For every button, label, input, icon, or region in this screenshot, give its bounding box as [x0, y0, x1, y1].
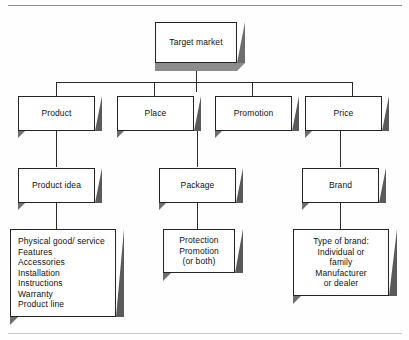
package-details-label: Protection Promotion (or both) [179, 235, 219, 267]
target-market-extrude-side [237, 22, 245, 63]
product-idea-details-extrude-bottom [10, 317, 18, 325]
product-idea-details-label: Physical good/ service Features Accessor… [11, 236, 105, 310]
brand-face: Brand [302, 168, 379, 203]
node-target-market[interactable]: Target market [155, 22, 237, 63]
node-brand[interactable]: Brand [302, 168, 379, 203]
package-extrude-bottom [159, 203, 166, 210]
product-idea-details-extrude-side [116, 229, 124, 317]
connector-target-to-bus [196, 70, 197, 92]
promotion-extrude-side [292, 96, 299, 131]
connector-drop-place [154, 82, 155, 96]
connector-drop-price [352, 82, 353, 96]
connector-price-to-brand [340, 131, 341, 167]
node-brand-details[interactable]: Type of brand: Individual or family Manu… [293, 229, 389, 296]
node-product-idea-details[interactable]: Physical good/ service Features Accessor… [10, 229, 116, 317]
price-face: Price [305, 96, 382, 131]
place-face: Place [117, 96, 194, 131]
package-details-face: Protection Promotion (or both) [163, 229, 235, 273]
connector-promotion-to-package [197, 131, 198, 167]
promotion-face: Promotion [215, 96, 292, 131]
price-label: Price [334, 108, 354, 119]
package-details-extrude-bottom [163, 273, 171, 281]
package-label: Package [181, 180, 215, 191]
price-extrude-bottom [305, 131, 312, 138]
brand-extrude-side [379, 168, 386, 203]
connector-drop-product [56, 82, 57, 96]
node-package-details[interactable]: Protection Promotion (or both) [163, 229, 235, 273]
product-idea-details-face: Physical good/ service Features Accessor… [10, 229, 116, 317]
brand-details-label: Type of brand: Individual or family Manu… [313, 236, 369, 289]
package-details-extrude-side [235, 229, 243, 273]
promotion-label: Promotion [234, 108, 274, 119]
page-top-rule [8, 5, 402, 6]
connector-package-to-details [197, 203, 198, 229]
diagram-canvas: Target market Product Place Promotion Pr… [0, 0, 409, 340]
connector-bus-four-ps [56, 82, 352, 83]
place-label: Place [145, 108, 167, 119]
target-market-label: Target market [169, 37, 222, 48]
product-face: Product [18, 96, 95, 131]
node-product-idea[interactable]: Product idea [18, 168, 95, 203]
target-market-extrude-bottom [155, 63, 245, 71]
promotion-extrude-bottom [215, 131, 222, 138]
brand-label: Brand [329, 180, 352, 191]
brand-details-extrude-bottom [293, 296, 301, 304]
product-extrude-side [95, 96, 102, 131]
page-bottom-rule [8, 333, 402, 334]
node-package[interactable]: Package [159, 168, 236, 203]
product-idea-extrude-bottom [18, 203, 25, 210]
product-label: Product [42, 108, 72, 119]
brand-details-extrude-side [389, 229, 397, 296]
product-idea-label: Product idea [32, 180, 81, 191]
node-product[interactable]: Product [18, 96, 95, 131]
product-extrude-bottom [18, 131, 25, 138]
brand-details-face: Type of brand: Individual or family Manu… [293, 229, 389, 296]
package-extrude-side [236, 168, 243, 203]
connector-drop-promotion [252, 82, 253, 96]
product-idea-extrude-side [95, 168, 102, 203]
connector-brand-to-details [340, 203, 341, 229]
package-face: Package [159, 168, 236, 203]
target-market-face: Target market [155, 22, 237, 63]
product-idea-face: Product idea [18, 168, 95, 203]
node-price[interactable]: Price [305, 96, 382, 131]
brand-extrude-bottom [302, 203, 309, 210]
connector-product-idea-to-details [56, 203, 57, 229]
place-extrude-bottom [117, 131, 124, 138]
place-extrude-side [194, 96, 201, 131]
connector-product-to-product-idea [56, 131, 57, 167]
node-place[interactable]: Place [117, 96, 194, 131]
price-extrude-side [382, 96, 389, 131]
node-promotion[interactable]: Promotion [215, 96, 292, 131]
